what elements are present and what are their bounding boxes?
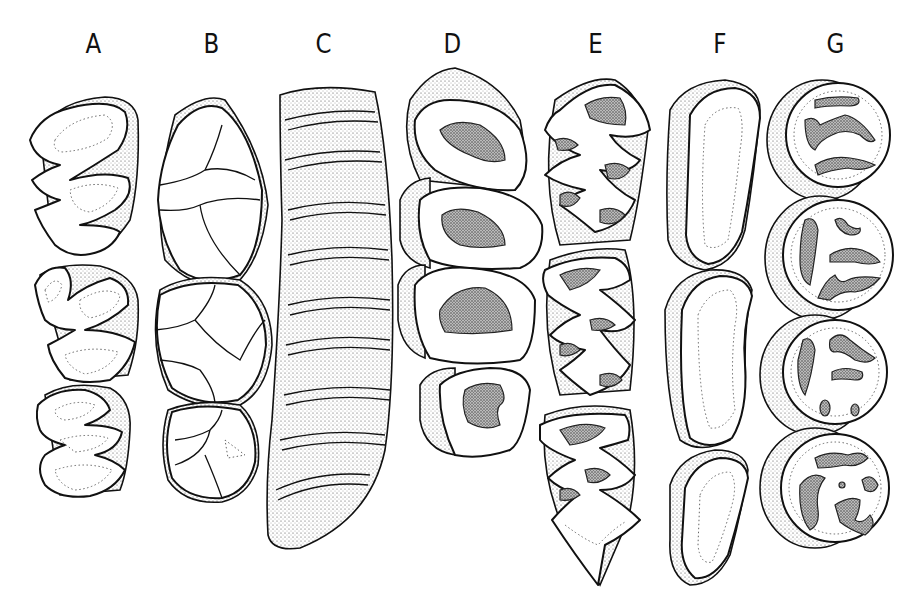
tooth-illustration [0,0,922,611]
tooth-row-c [267,88,393,549]
tooth-row-e [540,79,650,585]
tooth-row-g [760,80,893,548]
tooth-row-f [665,80,760,585]
tooth-row-b [155,98,272,502]
tooth-row-a [30,97,138,497]
tooth-row-d [398,68,542,457]
